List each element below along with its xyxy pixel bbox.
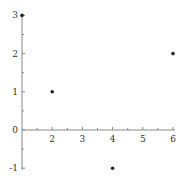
x-tick-label: 4 [110, 134, 116, 144]
y-tick-label: 2 [12, 49, 18, 59]
y-tick-label: 3 [12, 10, 18, 20]
data-point [111, 166, 115, 170]
y-tick-label: -1 [9, 163, 18, 173]
x-tick-label: 2 [49, 134, 55, 144]
y-tick-label: 1 [12, 87, 18, 97]
y-tick-label: 0 [12, 125, 18, 135]
ticks [22, 15, 173, 168]
x-tick-label: 6 [170, 134, 176, 144]
data-point [171, 52, 175, 56]
scatter-chart: 23456-10123 [0, 0, 183, 183]
tick-labels: 23456-10123 [9, 10, 176, 173]
x-tick-label: 5 [140, 134, 146, 144]
data-point [50, 90, 54, 94]
data-points [20, 14, 175, 170]
data-point [20, 14, 24, 18]
x-tick-label: 3 [80, 134, 86, 144]
axes [22, 14, 175, 170]
